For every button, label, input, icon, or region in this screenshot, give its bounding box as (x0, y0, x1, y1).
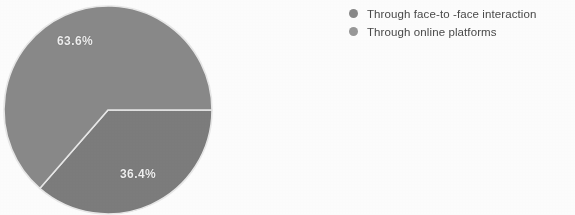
legend-label-face-to-face: Through face-to -face interaction (367, 8, 537, 20)
circle-marker-icon (349, 9, 358, 18)
pie-slice-label-online-platforms: 36.4% (120, 167, 156, 181)
pie-chart: 63.6% 36.4% (0, 0, 240, 215)
chart-legend: Through face-to -face interaction Throug… (349, 5, 575, 41)
circle-marker-icon (349, 27, 358, 36)
legend-label-online-platforms: Through online platforms (367, 26, 497, 38)
legend-item-face-to-face[interactable]: Through face-to -face interaction (349, 5, 575, 22)
legend-item-online-platforms[interactable]: Through online platforms (349, 23, 575, 40)
pie-chart-svg (0, 0, 240, 215)
pie-chart-screenshot: 63.6% 36.4% Through face-to -face intera… (0, 0, 575, 215)
pie-slice-label-face-to-face: 63.6% (57, 34, 93, 48)
